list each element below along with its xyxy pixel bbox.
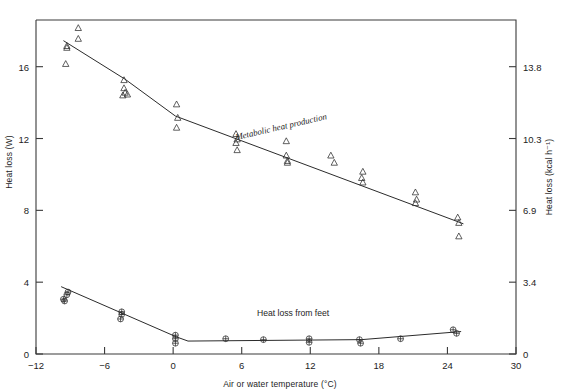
tick-labels-group: −12−60612182430048121603.46.910.313.8 [18, 62, 541, 371]
data-point-metabolic-22 [331, 159, 337, 165]
data-point-metabolic-24 [359, 175, 365, 181]
x-tick-label-2: 0 [170, 360, 175, 371]
x-tick-label-5: 18 [374, 360, 385, 371]
y-tick-label-right-1: 3.4 [523, 277, 536, 288]
data-point-metabolic-1 [64, 43, 70, 49]
data-point-metabolic-26 [412, 189, 418, 195]
plot-frame [36, 20, 516, 354]
x-tick-label-1: −6 [99, 360, 110, 371]
series-annotations-group: Metabolic heat productionHeat loss from … [233, 111, 329, 318]
y-axis-title-left: Heat loss (W) [4, 135, 14, 188]
x-tick-label-0: −12 [28, 360, 44, 371]
y-tick-label-right-2: 6.9 [523, 205, 536, 216]
data-point-metabolic-2 [63, 61, 69, 67]
x-axis-title: Air or water temperature (°C) [223, 379, 337, 389]
data-point-metabolic-21 [328, 152, 334, 158]
x-tick-label-6: 24 [442, 360, 453, 371]
annotation-metabolic-heat-production: Metabolic heat production [233, 111, 328, 142]
y-tick-label-right-4: 13.8 [523, 62, 542, 73]
data-point-metabolic-23 [360, 168, 366, 174]
y-tick-label-left-3: 12 [18, 134, 29, 145]
data-point-metabolic-10 [173, 101, 179, 107]
heat-loss-figure: −12−60612182430048121603.46.910.313.8 Me… [0, 0, 562, 392]
data-point-metabolic-16 [234, 147, 240, 153]
data-point-metabolic-31 [456, 233, 462, 239]
data-point-metabolic-4 [75, 35, 81, 41]
data-point-metabolic-29 [455, 214, 461, 220]
data-point-metabolic-6 [121, 85, 127, 91]
x-tick-label-3: 6 [239, 360, 244, 371]
data-point-metabolic-25 [360, 179, 366, 185]
y-tick-label-left-0: 0 [24, 349, 29, 360]
annotation-heat-loss-from-feet: Heat loss from feet [257, 308, 330, 318]
data-point-metabolic-17 [283, 138, 289, 144]
axis-titles-group: Air or water temperature (°C)Heat loss (… [4, 135, 554, 389]
data-point-metabolic-3 [75, 25, 81, 31]
axes-group [36, 20, 516, 354]
y-tick-label-left-1: 4 [24, 277, 29, 288]
data-series-group [61, 25, 464, 346]
data-point-metabolic-12 [173, 124, 179, 130]
x-tick-label-7: 30 [511, 360, 522, 371]
y-tick-label-right-0: 0 [523, 349, 528, 360]
y-axis-title-right: Heat loss (kcal h⁻¹) [544, 139, 554, 216]
y-tick-label-right-3: 10.3 [523, 134, 542, 145]
y-tick-label-left-4: 16 [18, 62, 29, 73]
y-tick-label-left-2: 8 [24, 205, 29, 216]
x-tick-label-4: 12 [305, 360, 316, 371]
chart-canvas: −12−60612182430048121603.46.910.313.8 Me… [0, 0, 562, 392]
